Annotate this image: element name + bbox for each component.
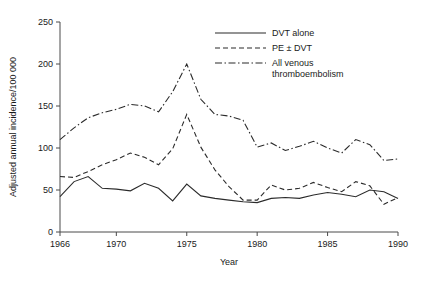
chart-axes: 050100150200250196619701975198019851990 <box>38 17 408 249</box>
series-line-1 <box>60 114 398 204</box>
y-tick-label: 100 <box>38 143 53 153</box>
y-axis-title: Adjusted annual incidence/100 000 <box>8 57 18 197</box>
chart-axis-titles: YearAdjusted annual incidence/100 000 <box>8 57 238 267</box>
legend-label-0: DVT alone <box>272 28 314 38</box>
series-line-2 <box>60 64 398 161</box>
chart-series <box>60 64 398 204</box>
x-tick-label: 1980 <box>247 239 267 249</box>
y-tick-label: 0 <box>48 227 53 237</box>
chart-figure: 050100150200250196619701975198019851990 … <box>0 0 425 281</box>
x-tick-label: 1990 <box>388 239 408 249</box>
chart-legend: DVT alonePE ± DVTAll venousthromboemboli… <box>215 28 344 79</box>
x-tick-label: 1966 <box>50 239 70 249</box>
legend-label-2: All venous <box>272 58 314 68</box>
y-tick-label: 50 <box>43 185 53 195</box>
line-chart: 050100150200250196619701975198019851990 … <box>0 0 425 281</box>
legend-label-1: PE ± DVT <box>272 43 312 53</box>
y-tick-label: 250 <box>38 17 53 27</box>
x-tick-label: 1975 <box>177 239 197 249</box>
x-axis-title: Year <box>220 257 238 267</box>
x-tick-label: 1970 <box>106 239 126 249</box>
legend-label-2-line2: thromboembolism <box>272 69 344 79</box>
y-tick-label: 200 <box>38 59 53 69</box>
x-tick-label: 1985 <box>318 239 338 249</box>
y-tick-label: 150 <box>38 101 53 111</box>
series-line-0 <box>60 177 398 203</box>
